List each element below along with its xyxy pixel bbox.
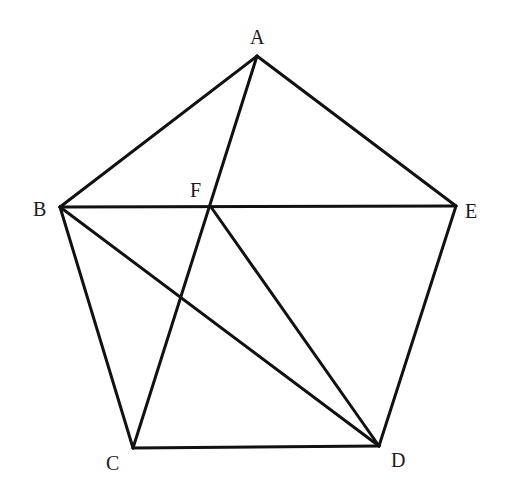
label-F: F bbox=[190, 180, 201, 200]
pentagon-figure bbox=[0, 0, 512, 497]
label-B: B bbox=[33, 199, 46, 219]
segment-EA bbox=[257, 56, 456, 206]
label-E: E bbox=[465, 201, 477, 221]
segment-BE bbox=[60, 206, 456, 207]
segment-AC bbox=[133, 56, 257, 448]
diagram-canvas: A B F E C D bbox=[0, 0, 512, 497]
segment-CD bbox=[133, 446, 379, 448]
segment-AB bbox=[60, 56, 257, 207]
label-D: D bbox=[391, 450, 405, 470]
label-C: C bbox=[106, 453, 119, 473]
segment-FD bbox=[211, 207, 379, 446]
segment-BC bbox=[60, 207, 133, 448]
segment-DE bbox=[379, 206, 456, 446]
label-A: A bbox=[250, 27, 264, 47]
segment-BD bbox=[60, 207, 379, 446]
